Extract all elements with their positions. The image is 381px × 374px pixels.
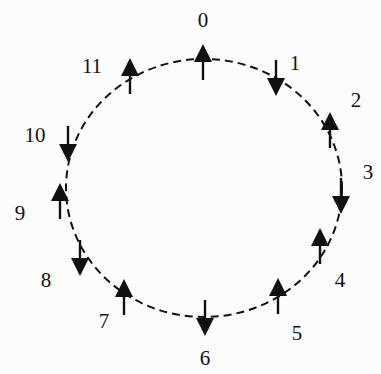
site-label: 3 <box>363 160 374 184</box>
site-5: 5 <box>269 278 302 345</box>
spin-up-arrow-icon <box>269 278 287 314</box>
dashed-ring <box>66 59 342 317</box>
spin-ring-diagram: 01234567891011 <box>0 0 381 374</box>
spin-down-arrow-icon <box>196 300 214 336</box>
site-label: 0 <box>198 8 209 32</box>
site-1: 1 <box>267 51 300 96</box>
site-label: 7 <box>99 309 110 333</box>
site-label: 11 <box>82 54 102 78</box>
site-label: 2 <box>351 88 362 112</box>
spin-down-arrow-icon <box>332 178 350 214</box>
spin-down-arrow-icon <box>59 126 77 162</box>
spin-up-arrow-icon <box>115 279 133 315</box>
site-label: 8 <box>41 268 52 292</box>
site-11: 11 <box>82 54 139 94</box>
site-9: 9 <box>15 183 69 225</box>
site-0: 0 <box>194 8 212 80</box>
site-label: 9 <box>15 201 26 225</box>
site-4: 4 <box>311 228 346 292</box>
site-label: 1 <box>290 51 301 75</box>
spin-up-arrow-icon <box>121 58 139 94</box>
site-2: 2 <box>321 88 361 148</box>
site-6: 6 <box>196 300 214 370</box>
site-label: 6 <box>200 346 211 370</box>
spin-up-arrow-icon <box>321 112 339 148</box>
site-label: 10 <box>25 123 46 147</box>
site-label: 4 <box>335 268 346 292</box>
site-10: 10 <box>25 123 78 162</box>
sites-group: 01234567891011 <box>15 8 374 370</box>
spin-down-arrow-icon <box>71 240 89 276</box>
spin-up-arrow-icon <box>311 228 329 264</box>
site-3: 3 <box>332 160 373 214</box>
spin-down-arrow-icon <box>267 60 285 96</box>
spin-up-arrow-icon <box>194 44 212 80</box>
site-label: 5 <box>292 321 303 345</box>
